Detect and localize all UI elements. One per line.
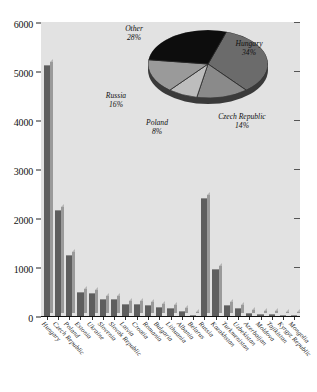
bar-front-face [66,255,72,316]
bar-top-face [106,293,109,296]
bar-side-face [219,266,222,313]
bar [44,62,50,316]
pie-label-other-name: Other [125,24,143,33]
bar-front-face [212,269,218,316]
bar-top-face [95,287,98,290]
bar-top-face [196,309,199,312]
pie-label-russia-pct: 16% [96,100,136,109]
bar-side-face [106,296,109,313]
y-axis-tick-label: 6000 [14,19,36,30]
bar [111,296,117,316]
bar [167,305,173,316]
bar-top-face [129,298,132,301]
pie-label-hungary: Hungary 34% [222,39,276,57]
bar-top-face [230,299,233,302]
bar-front-face [167,308,173,316]
bar-side-face [275,311,278,313]
pie-label-russia-name: Russia [106,91,126,100]
bar-side-face [50,62,53,313]
bar-front-face [145,305,151,316]
bar-top-face [151,299,154,302]
pie-label-poland: Poland 8% [137,118,177,136]
bar-front-face [235,308,241,316]
y-axis-tick: 2000 [14,213,41,224]
pie-label-other-pct: 28% [110,33,158,42]
bar-front-face [156,307,162,316]
bar-front-face [224,305,230,316]
bar-top-face [72,249,75,252]
bar [122,301,128,316]
bar [145,302,151,316]
bar [89,290,95,316]
y-axis-tick: 1000 [14,262,41,273]
x-axis-labels: HungaryCzech RepublicPolandEstoniaUkrain… [41,320,317,392]
bar-side-face [241,305,244,313]
y-axis-tick-label: 4000 [14,117,36,128]
y-axis-tick: 4000 [14,115,41,126]
bar-top-face [61,204,64,207]
bar-side-face [117,296,120,313]
y-axis: 0100020003000400050006000 [0,22,41,316]
bar-side-face [151,302,154,313]
bar-front-face [100,299,106,316]
bar-side-face [95,290,98,313]
bar-top-face [264,308,267,311]
bar-top-face [219,263,222,266]
bar-side-face [140,301,143,313]
bar-front-face [44,65,50,316]
bar-side-face [264,311,267,313]
bar-side-face [185,308,188,313]
pie-label-czech-name: Czech Republic [218,112,265,121]
bar-side-face [61,207,64,313]
bar-front-face [89,293,95,316]
pie-label-poland-name: Poland [146,118,168,127]
pie-label-russia: Russia 16% [96,91,136,109]
bar-side-face [297,312,300,314]
bar-side-face [252,310,255,313]
bar-top-face [286,309,289,312]
bar-top-face [297,309,300,312]
bar [235,305,241,316]
y-axis-tick-label: 1000 [14,264,36,275]
bar [66,252,72,316]
bar-front-face [55,210,61,316]
bar-top-face [241,302,244,305]
bar-top-face [50,59,53,62]
y-axis-tick-label: 3000 [14,166,36,177]
y-axis-tick: 3000 [14,164,41,175]
y-axis-tick-label: 0 [28,313,36,324]
bar-front-face [134,304,140,316]
bar-top-face [275,308,278,311]
bar-front-face [111,299,117,316]
bar [212,266,218,316]
bar-top-face [84,286,87,289]
bar-side-face [286,312,289,314]
bar-side-face [129,301,132,313]
bar-chart-figure: 0100020003000400050006000 HungaryCzech R… [0,0,317,392]
bar-top-face [117,293,120,296]
y-axis-tick-label: 5000 [14,68,36,79]
bar-top-face [207,192,210,195]
inset-pie-chart [148,22,268,114]
bar-top-face [174,302,177,305]
bar-front-face [77,292,83,316]
bar-side-face [207,195,210,313]
pie-label-poland-pct: 8% [137,127,177,136]
bar-side-face [196,312,199,314]
bar-side-face [174,305,177,313]
pie-label-other: Other 28% [110,24,158,42]
bar-top-face [162,301,165,304]
pie-label-hungary-name: Hungary [236,39,263,48]
bar [179,308,185,316]
bar-top-face [252,307,255,310]
bar-side-face [162,304,165,313]
pie-label-hungary-pct: 34% [222,48,276,57]
pie-label-czech-republic: Czech Republic 14% [205,112,279,130]
bar-top-face [185,305,188,308]
bar-front-face [122,304,128,316]
bar [224,302,230,316]
pie-label-czech-pct: 14% [205,121,279,130]
bar [156,304,162,316]
y-axis-tick: 5000 [14,66,41,77]
bar [77,289,83,316]
